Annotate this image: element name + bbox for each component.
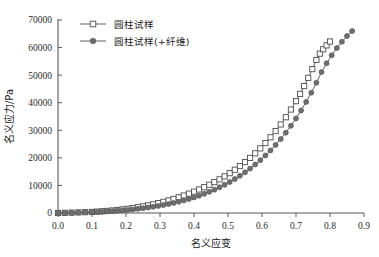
data-point xyxy=(181,193,186,198)
data-point xyxy=(304,99,309,104)
data-point xyxy=(207,189,212,194)
data-point xyxy=(237,163,242,168)
data-point xyxy=(268,148,273,153)
data-point xyxy=(227,171,232,176)
y-tick-label: 20000 xyxy=(28,153,52,163)
data-point xyxy=(227,180,232,185)
data-point xyxy=(141,206,146,211)
y-tick-label: 60000 xyxy=(28,43,52,53)
x-tick-label: 0.7 xyxy=(290,221,302,231)
y-tick-label: 0 xyxy=(47,208,52,218)
data-point xyxy=(299,108,304,113)
legend-marker-2 xyxy=(90,38,96,44)
data-point xyxy=(310,67,315,72)
data-point xyxy=(56,211,61,216)
stress-strain-chart: 010000200003000040000500006000070000 0.0… xyxy=(0,0,379,257)
y-axis-title: 名义应力/Pa xyxy=(3,89,15,144)
data-point xyxy=(166,202,171,207)
data-point xyxy=(192,195,197,200)
data-point xyxy=(125,207,130,212)
data-point xyxy=(268,135,273,140)
data-point xyxy=(176,199,181,204)
data-point xyxy=(248,155,253,160)
data-point xyxy=(309,90,314,95)
data-point xyxy=(120,208,125,213)
data-point xyxy=(151,204,156,209)
data-point xyxy=(288,123,293,128)
data-point xyxy=(302,83,307,88)
x-tick-label: 0.4 xyxy=(188,221,200,231)
data-point xyxy=(253,162,258,167)
data-point xyxy=(263,153,268,158)
data-point xyxy=(278,122,283,127)
data-point xyxy=(319,70,324,75)
data-point xyxy=(146,205,151,210)
data-point xyxy=(242,160,247,165)
data-point xyxy=(105,209,110,214)
data-point xyxy=(90,210,95,215)
series-group xyxy=(55,29,354,216)
data-point xyxy=(130,207,135,212)
data-point xyxy=(278,137,283,142)
data-point xyxy=(186,191,191,196)
legend-label-1: 圆柱试样 xyxy=(114,19,154,30)
legend-marker-1 xyxy=(90,21,96,27)
data-point xyxy=(263,140,268,145)
x-tick-label: 0.9 xyxy=(358,221,370,231)
data-point xyxy=(217,185,222,190)
data-point xyxy=(324,61,329,66)
x-tick-labels: 0.00.10.20.30.40.50.60.70.80.9 xyxy=(52,221,370,231)
y-tick-label: 70000 xyxy=(28,15,52,25)
data-point xyxy=(222,174,227,179)
data-point xyxy=(273,142,278,147)
data-point xyxy=(202,191,207,196)
data-point xyxy=(258,158,263,163)
data-point xyxy=(156,203,161,208)
data-point xyxy=(83,210,88,215)
x-tick-label: 0.8 xyxy=(324,221,336,231)
data-point xyxy=(100,209,105,214)
data-point xyxy=(345,33,350,38)
legend: 圆柱试样圆柱试样(+纤维) xyxy=(80,19,189,47)
data-point xyxy=(329,53,334,58)
data-point xyxy=(110,209,115,214)
data-point xyxy=(115,208,120,213)
data-point xyxy=(350,29,355,34)
data-point xyxy=(334,46,339,51)
data-point xyxy=(161,203,166,208)
x-axis-title: 名义应变 xyxy=(191,237,231,249)
data-point xyxy=(273,129,278,134)
y-tick-label: 30000 xyxy=(28,126,52,136)
y-tick-marks xyxy=(58,20,62,213)
data-point xyxy=(293,99,298,104)
plot-area: 010000200003000040000500006000070000 0.0… xyxy=(0,0,379,257)
legend-label-2: 圆柱试样(+纤维) xyxy=(114,36,189,47)
data-point xyxy=(232,167,237,172)
data-point xyxy=(191,189,196,194)
data-point xyxy=(314,57,319,62)
data-point xyxy=(222,182,227,187)
data-point xyxy=(283,130,288,135)
data-point xyxy=(217,177,222,182)
data-point xyxy=(288,107,293,112)
data-point xyxy=(95,209,100,214)
data-point xyxy=(76,210,81,215)
data-point xyxy=(243,170,248,175)
data-point xyxy=(62,210,67,215)
y-tick-label: 50000 xyxy=(28,71,52,81)
data-point xyxy=(253,151,258,156)
data-point xyxy=(237,173,242,178)
data-point xyxy=(306,75,311,80)
data-point xyxy=(197,187,202,192)
data-point xyxy=(171,200,176,205)
data-point xyxy=(258,146,263,151)
y-tick-label: 40000 xyxy=(28,98,52,108)
data-point xyxy=(283,115,288,120)
y-tick-labels: 010000200003000040000500006000070000 xyxy=(28,15,52,218)
data-point xyxy=(135,206,140,211)
data-point xyxy=(197,193,202,198)
data-point xyxy=(181,198,186,203)
data-point xyxy=(212,180,217,185)
data-point xyxy=(339,39,344,44)
data-point xyxy=(186,196,191,201)
